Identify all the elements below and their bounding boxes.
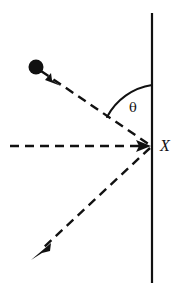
particle-ball <box>29 60 44 75</box>
vertex-label-x: X <box>159 137 171 154</box>
angle-label-theta: θ <box>129 100 137 115</box>
diagram-svg: X θ <box>0 0 180 294</box>
reflection-diagram-canvas: X θ <box>0 0 180 294</box>
